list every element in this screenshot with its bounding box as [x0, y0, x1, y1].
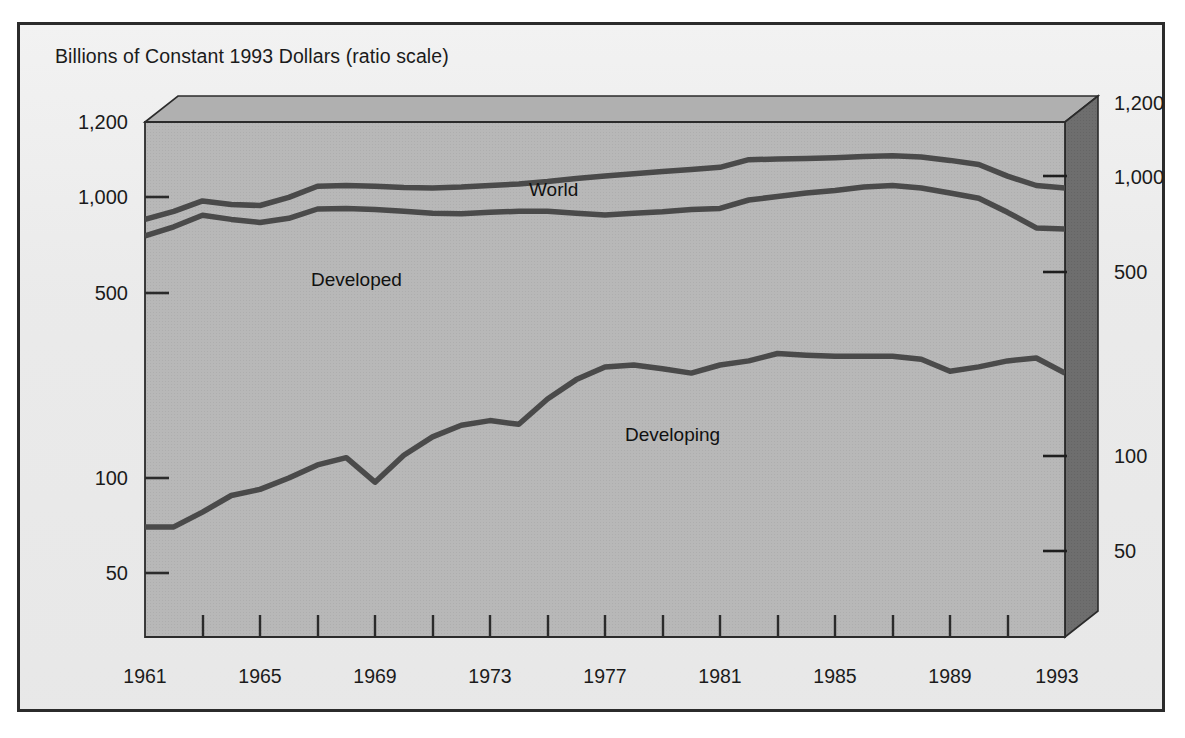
- series-label-developed: Developed: [311, 269, 402, 290]
- right-tick-label-500: 500: [1114, 261, 1147, 283]
- left-tick-label-1200: 1,200: [78, 111, 128, 133]
- series-label-world: World: [529, 179, 578, 200]
- right-tick-label-1200: 1,200: [1114, 92, 1164, 114]
- x-tick-label-1985: 1985: [813, 665, 857, 687]
- right-tick-label-1000: 1,000: [1114, 166, 1164, 188]
- x-tick-label-1965: 1965: [238, 665, 282, 687]
- x-tick-label-1977: 1977: [583, 665, 626, 687]
- left-tick-label-1000: 1,000: [78, 186, 128, 208]
- series-label-developing: Developing: [625, 424, 720, 445]
- left-tick-label-100: 100: [95, 467, 128, 489]
- left-tick-label-50: 50: [106, 562, 128, 584]
- x-tick-label-1989: 1989: [928, 665, 971, 687]
- chart-svg: 1,200 1,000 500 100 50 1,200 1,000 500 1…: [0, 0, 1185, 738]
- x-tick-label-1993: 1993: [1035, 665, 1078, 687]
- x-tick-label-1969: 1969: [353, 665, 396, 687]
- plot-area: 1,200 1,000 500 100 50 1,200 1,000 500 1…: [0, 0, 1185, 738]
- right-tick-label-50: 50: [1114, 540, 1136, 562]
- plot-box-top-face: [145, 96, 1098, 122]
- x-tick-label-1981: 1981: [698, 665, 741, 687]
- figure-root: Billions of Constant 1993 Dollars (ratio…: [0, 0, 1185, 738]
- x-tick-label-1973: 1973: [468, 665, 511, 687]
- right-tick-label-100: 100: [1114, 445, 1147, 467]
- plot-box-right-face: [1065, 96, 1098, 637]
- left-tick-label-500: 500: [95, 282, 128, 304]
- x-tick-label-1961: 1961: [123, 665, 166, 687]
